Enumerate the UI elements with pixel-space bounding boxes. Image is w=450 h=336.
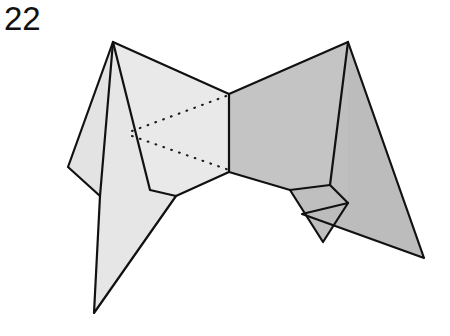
figure-canvas: 22: [0, 0, 450, 336]
panel-right-inner-face: [229, 42, 348, 190]
figure-number-label: 22: [4, 2, 41, 35]
figure-drawing: [0, 0, 450, 336]
